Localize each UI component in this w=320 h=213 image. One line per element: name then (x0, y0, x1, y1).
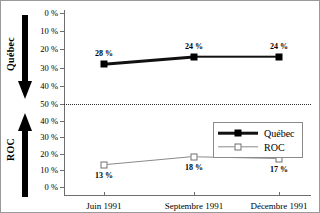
data-point-marker[interactable] (191, 53, 198, 60)
y-axis-tick-label: 10 % (40, 26, 58, 36)
data-point-marker[interactable] (191, 154, 198, 161)
tick-mark (60, 68, 65, 69)
line-segment (104, 156, 194, 166)
legend-item-quebec[interactable]: Québec (218, 126, 295, 140)
x-axis-tick-label: Juin 1991 (86, 201, 121, 211)
tick-mark (60, 121, 65, 122)
y-axis-tick-label: 20 % (40, 44, 58, 54)
tick-mark (60, 137, 65, 138)
chart-legend: Québec ROC (213, 122, 303, 158)
y-axis-tick-label: 40 % (40, 116, 58, 126)
data-point-label: 13 % (95, 171, 113, 180)
x-axis-tick-label: Septembre 1991 (165, 201, 224, 211)
legend-label-quebec: Québec (264, 128, 295, 139)
data-point-marker[interactable] (101, 162, 108, 169)
y-axis-spine (64, 10, 65, 196)
plot-area: 0 %10 %20 %30 %40 %50 % 40 %30 %20 %10 %… (64, 10, 311, 196)
lower-panel-side-label: ROC (5, 129, 16, 169)
data-point-label: 17 % (270, 165, 288, 174)
y-axis-tick-label: 30 % (40, 132, 58, 142)
tick-mark (60, 187, 65, 188)
y-axis-tick-label: 50 % (40, 99, 58, 109)
data-point-label: 18 % (185, 163, 203, 172)
tick-mark (60, 49, 65, 50)
tick-mark (60, 13, 65, 14)
x-axis-tick (104, 192, 105, 196)
data-point-label: 28 % (95, 49, 113, 58)
y-axis-tick-label: 0 % (45, 8, 58, 18)
y-axis-tick-label: 40 % (40, 81, 58, 91)
y-axis-tick-label: 20 % (40, 149, 58, 159)
tick-mark (60, 154, 65, 155)
data-point-label: 24 % (270, 42, 288, 51)
tick-mark (60, 170, 65, 171)
data-point-marker[interactable] (276, 53, 283, 60)
y-axis-tick-label: 10 % (40, 165, 58, 175)
legend-swatch-roc (218, 141, 258, 153)
legend-item-roc[interactable]: ROC (218, 140, 295, 154)
x-axis-spine (64, 195, 311, 196)
y-axis-tick-label: 0 % (45, 182, 58, 192)
tick-mark (60, 86, 65, 87)
legend-label-roc: ROC (264, 142, 285, 153)
y-axis-tick-label: 30 % (40, 63, 58, 73)
up-arrow-icon (18, 113, 32, 197)
line-segment (194, 55, 279, 58)
down-arrow-icon (18, 15, 32, 99)
data-point-label: 24 % (185, 42, 203, 51)
x-axis-tick-label: Décembre 1991 (250, 201, 307, 211)
upper-panel-side-label: Québec (5, 31, 16, 77)
data-point-marker[interactable] (101, 60, 108, 67)
x-axis-tick (194, 192, 195, 196)
midline-50-percent (64, 104, 311, 105)
chart-figure: Québec ROC 0 %10 %20 %30 %40 %50 % 40 %3… (0, 0, 320, 213)
legend-swatch-quebec (218, 127, 258, 139)
x-axis-tick (279, 192, 280, 196)
tick-mark (60, 31, 65, 32)
line-segment (104, 55, 194, 65)
